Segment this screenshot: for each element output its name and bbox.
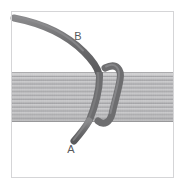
- knot-illustration: B A: [0, 0, 185, 193]
- knot-diagram-figure: B A: [0, 0, 185, 193]
- label-a: A: [67, 143, 75, 155]
- label-b: B: [74, 30, 81, 42]
